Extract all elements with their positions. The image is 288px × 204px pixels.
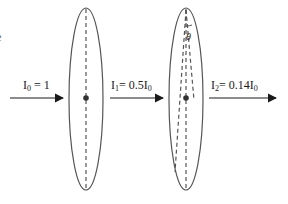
polarizer-1 xyxy=(69,8,103,190)
polarizer-1-center-dot xyxy=(83,95,89,101)
polarizer-2-tilted-axis-upper xyxy=(186,10,194,100)
label-i0: I0 = 1 xyxy=(23,79,50,93)
polarizer-2-center-dot xyxy=(183,95,189,101)
label-i2: I2= 0.14I0 xyxy=(211,79,258,93)
angle-theta-label: θ xyxy=(186,31,191,42)
cropped-text-fragment: e xyxy=(0,30,1,45)
diagram-canvas xyxy=(0,0,288,204)
label-i1: I1= 0.5I0 xyxy=(111,79,152,93)
polarizer-2-tilted-axis xyxy=(175,10,186,172)
